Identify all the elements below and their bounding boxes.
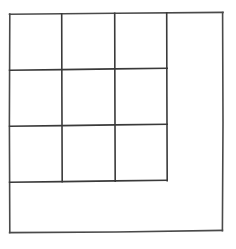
grid-cell-r2c3 [116, 70, 166, 124]
grid-cell-r3c3 [116, 126, 166, 180]
grid-vertical-divider-2 [115, 13, 116, 181]
outer-square-right-edge [222, 13, 223, 231]
grid-cell-r2c1 [10, 71, 61, 125]
grid-cell-r1c1 [10, 14, 61, 69]
grid-vertical-divider-1 [62, 14, 63, 182]
grid-cell-regions [10, 14, 222, 231]
grid-cell-r3c1 [10, 127, 61, 182]
grid-cell-r1c3 [116, 14, 166, 68]
grid-cell-r3c2 [63, 126, 114, 181]
grid-cell-r1c2 [63, 14, 114, 69]
figure-canvas [0, 0, 236, 249]
grid-right-boundary [167, 13, 168, 181]
geometric-figure-svg [0, 0, 236, 249]
grid-cell-r2c2 [63, 70, 114, 125]
